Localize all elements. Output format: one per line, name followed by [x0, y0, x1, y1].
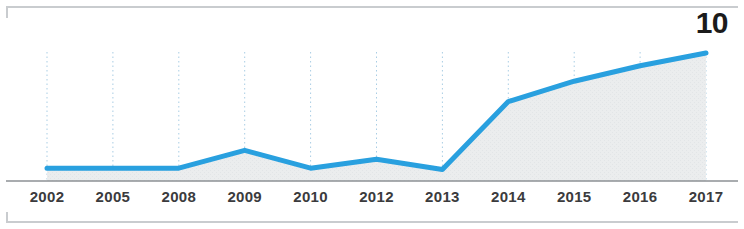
x-tick-label-2009: 2009 — [227, 188, 262, 205]
value-callout: 10 — [696, 8, 728, 38]
x-tick-label-2014: 2014 — [491, 188, 526, 205]
card-bottom-border — [6, 221, 738, 223]
x-axis-labels: 2002200520082009201020122013201420152016… — [0, 188, 744, 216]
x-tick-label-2008: 2008 — [162, 188, 197, 205]
plot-area — [0, 0, 744, 190]
line-chart-svg — [0, 0, 744, 190]
x-tick-label-2013: 2013 — [425, 188, 460, 205]
x-tick-label-2005: 2005 — [96, 188, 131, 205]
x-tick-label-2010: 2010 — [293, 188, 328, 205]
x-tick-label-2015: 2015 — [557, 188, 592, 205]
x-tick-label-2012: 2012 — [359, 188, 394, 205]
x-tick-label-2017: 2017 — [689, 188, 724, 205]
x-tick-label-2002: 2002 — [30, 188, 65, 205]
x-tick-label-2016: 2016 — [623, 188, 658, 205]
chart-card: 10 2002200520082009201020122013201420152… — [0, 0, 744, 229]
